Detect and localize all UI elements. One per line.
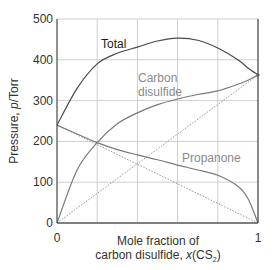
y-tick-label: 0 bbox=[46, 216, 53, 230]
y-tick-label: 500 bbox=[33, 12, 53, 26]
vapour-pressure-chart: 0100200300400500 0 1 Mole fraction of ca… bbox=[0, 0, 275, 270]
label-total: Total bbox=[101, 37, 126, 51]
x-axis-label-line2: carbon disulfide, x(CS2) bbox=[95, 248, 220, 263]
y-axis-label: Pressure, p/Torr bbox=[7, 78, 21, 163]
y-tick-labels: 0100200300400500 bbox=[33, 12, 53, 230]
y-tick-label: 400 bbox=[33, 53, 53, 67]
axes bbox=[57, 19, 258, 223]
x-axis-label-line1: Mole fraction of bbox=[117, 234, 200, 248]
y-tick-label: 100 bbox=[33, 175, 53, 189]
y-tick-label: 200 bbox=[33, 134, 53, 148]
grid-lines bbox=[57, 19, 258, 223]
label-cs2-line1: Carbon bbox=[138, 71, 177, 85]
label-cs2-line2: disulfide bbox=[138, 85, 182, 99]
x-tick-1: 1 bbox=[255, 231, 262, 245]
raoult-ideal-line bbox=[57, 125, 258, 223]
x-tick-0: 0 bbox=[54, 231, 61, 245]
pressure-curves bbox=[57, 38, 260, 223]
y-tick-label: 300 bbox=[33, 94, 53, 108]
label-propanone: Propanone bbox=[182, 151, 241, 165]
